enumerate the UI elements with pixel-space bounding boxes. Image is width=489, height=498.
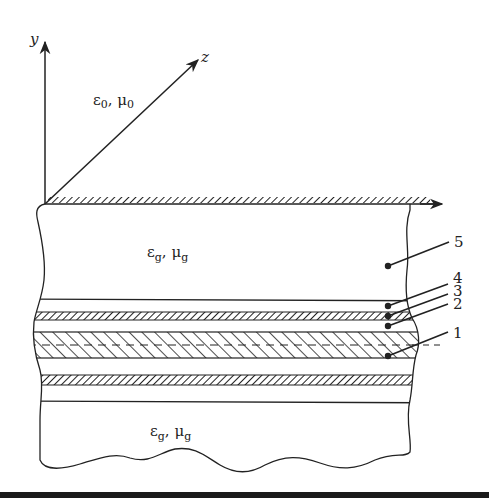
top-surface-hatch bbox=[45, 197, 435, 204]
z-axis-arrow bbox=[45, 60, 198, 204]
leader-dot-2 bbox=[386, 324, 391, 329]
layer-label-2: 2 bbox=[453, 295, 463, 313]
leader-dot-5 bbox=[386, 264, 391, 269]
y-axis-label: y bbox=[29, 30, 39, 48]
lower-thin-strip bbox=[0, 375, 489, 385]
layer-stack bbox=[0, 204, 489, 474]
leader-dot-3 bbox=[386, 314, 391, 319]
z-axis-label: z bbox=[200, 48, 209, 66]
leader-dot-4 bbox=[386, 304, 391, 309]
diagram-canvas: y z ε0, μ0 εg, μg εg, μg 5 4 3 2 1 bbox=[0, 0, 489, 498]
layer-label-1: 1 bbox=[453, 324, 463, 342]
bottom-rule bbox=[0, 492, 489, 498]
leader-dot-1 bbox=[386, 354, 391, 359]
layer-label-5: 5 bbox=[454, 233, 464, 251]
upper-medium-label: ε0, μ0 bbox=[93, 91, 134, 111]
